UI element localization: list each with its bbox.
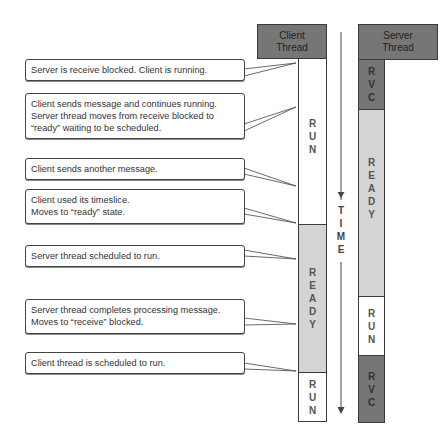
- callout-2-line-1: Client sends message and continues runni…: [31, 98, 239, 110]
- callout-6-line-1: Server thread completes processing messa…: [31, 304, 239, 316]
- callout-6-line-2: Moves to “receive” blocked.: [31, 316, 239, 328]
- down-arrow-head-icon: [338, 407, 345, 414]
- time-letter-i: I: [334, 217, 348, 230]
- callout-4-line-1: Client used its timeslice.: [31, 194, 239, 206]
- callout-4-line-2: Moves to “ready” state.: [31, 206, 239, 218]
- time-letter-t: T: [334, 204, 348, 217]
- time-axis-label: T I M E: [334, 204, 348, 256]
- callout-server-receive-blocked: Server is receive blocked. Client is run…: [25, 59, 245, 81]
- callout-2-line-3: “ready” waiting to be scheduled.: [31, 122, 239, 134]
- callout-server-completes: Server thread completes processing messa…: [25, 299, 245, 334]
- callout-client-scheduled: Client thread is scheduled to run.: [25, 352, 245, 374]
- time-letter-m: M: [334, 230, 348, 243]
- callout-2-line-2: Server thread moves from receive blocked…: [31, 110, 239, 122]
- callout-7-line-1: Client thread is scheduled to run.: [31, 357, 239, 369]
- down-arrow-icon: [338, 192, 345, 198]
- callout-client-sends-another: Client sends another message.: [25, 158, 245, 180]
- callout-1-line-1: Server is receive blocked. Client is run…: [31, 64, 239, 76]
- callout-3-line-1: Client sends another message.: [31, 163, 239, 175]
- callout-5-line-1: Server thread scheduled to run.: [31, 250, 239, 262]
- time-letter-e: E: [334, 243, 348, 256]
- callout-client-timeslice: Client used its timeslice. Moves to “rea…: [25, 189, 245, 224]
- callout-server-scheduled: Server thread scheduled to run.: [25, 245, 245, 267]
- callout-client-sends-message: Client sends message and continues runni…: [25, 93, 245, 139]
